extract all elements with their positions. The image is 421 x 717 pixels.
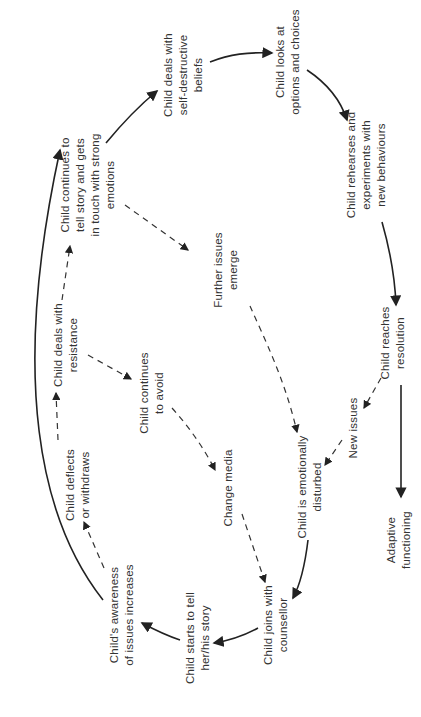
node-further-issues: Further issues emerge: [211, 232, 241, 308]
edge-starts-story-to-awareness: [142, 623, 180, 640]
node-line: in touch with strong: [88, 133, 103, 236]
node-child-joins: Child joins with counsellor: [261, 585, 291, 665]
node-rehearses: Child rehearses and experiments with new…: [344, 112, 389, 219]
node-change-media: Change media: [221, 449, 236, 526]
node-line: emerge: [226, 232, 241, 308]
edge-change-media-to-child-joins: [242, 514, 265, 582]
node-line: functioning: [399, 511, 414, 569]
node-line: Child's awareness: [107, 564, 122, 666]
node-line: emotions: [103, 133, 118, 236]
edge-deflects-to-resistance: [56, 393, 58, 440]
edge-rehearses-to-resolution: [382, 222, 396, 305]
node-strong-emotions: Child continues to tell story and gets i…: [58, 133, 118, 236]
node-line: beliefs: [191, 33, 206, 117]
node-line: Child reaches: [378, 307, 393, 380]
node-line: her/his story: [198, 592, 213, 684]
node-line: or withdraws: [78, 449, 93, 521]
edge-new-issues-to-disturbed: [325, 440, 342, 465]
edge-disturbed-to-child-joins: [293, 540, 308, 598]
node-line: resistance: [66, 303, 81, 387]
node-line: Child joins with: [261, 585, 276, 665]
edge-resistance-to-continues-avoid: [88, 355, 131, 379]
node-line: new behaviours: [374, 112, 389, 219]
node-line: Child continues: [137, 352, 152, 434]
node-line: Child is emotionally: [295, 435, 310, 538]
node-new-issues: New issues: [346, 398, 361, 459]
node-line: Child deflects: [63, 449, 78, 521]
node-line: self-destructive: [176, 33, 191, 117]
node-line: New issues: [346, 398, 361, 459]
edge-continues-avoid-to-change-media: [172, 408, 215, 470]
node-line: Child looks at: [273, 9, 288, 114]
node-line: Child starts to tell: [183, 592, 198, 684]
node-continues-avoid: Child continues to avoid: [137, 352, 167, 434]
node-deflects: Child deflects or withdraws: [63, 449, 93, 521]
edge-resistance-to-strong-emotions: [62, 246, 70, 300]
node-line: Child continues to: [58, 133, 73, 236]
node-options: Child looks at options and choices: [273, 9, 303, 114]
edge-further-issues-to-disturbed: [250, 306, 297, 432]
node-self-destructive: Child deals with self-destructive belief…: [161, 33, 206, 117]
edge-self-destructive-to-options: [210, 53, 272, 62]
node-line: tell story and gets: [73, 133, 88, 236]
node-line: Adaptive: [384, 511, 399, 569]
node-emotionally-disturbed: Child is emotionally disturbed: [295, 435, 325, 538]
node-line: counsellor: [276, 585, 291, 665]
node-line: Child rehearses and: [344, 112, 359, 219]
edge-options-to-rehearses: [307, 70, 347, 120]
node-line: Change media: [221, 449, 236, 526]
node-resistance: Child deals with resistance: [51, 303, 81, 387]
node-resolution: Child reaches resolution: [378, 307, 408, 380]
node-line: Child deals with: [161, 33, 176, 117]
node-line: experiments with: [359, 112, 374, 219]
node-line: resolution: [393, 307, 408, 380]
edge-strong-emotions-to-further-issues: [125, 205, 188, 250]
node-line: Child deals with: [51, 303, 66, 387]
edge-resolution-to-new-issues: [364, 378, 381, 408]
node-line: of issues increases: [122, 564, 137, 666]
node-line: options and choices: [288, 9, 303, 114]
node-line: Further issues: [211, 232, 226, 308]
edge-awareness-to-deflects: [84, 522, 104, 568]
edge-child-joins-to-starts-story: [214, 628, 258, 643]
node-line: to avoid: [152, 352, 167, 434]
node-awareness: Child's awareness of issues increases: [107, 564, 137, 666]
node-line: disturbed: [310, 435, 325, 538]
node-adaptive: Adaptive functioning: [384, 511, 414, 569]
node-starts-story: Child starts to tell her/his story: [183, 592, 213, 684]
